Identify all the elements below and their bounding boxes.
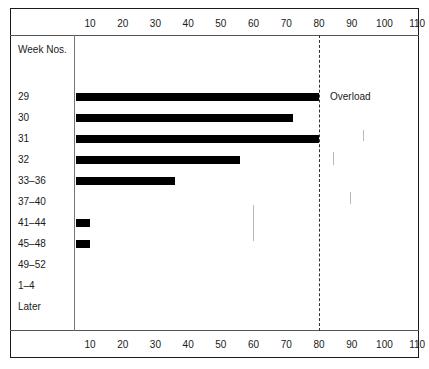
frame-top-rule: [10, 8, 419, 9]
chart-row: 29: [0, 86, 429, 107]
axis-tick-label: 40: [183, 337, 194, 353]
plot-area: Overload 2930313233–3637–4041–4445–4849–…: [0, 35, 429, 331]
axis-tick-label: 20: [117, 16, 128, 32]
chart-row: 41–44: [0, 212, 429, 233]
bar: [76, 240, 90, 248]
chart-row: 1–4: [0, 275, 429, 296]
chart-row: 49–52: [0, 254, 429, 275]
axis-tick-label: 70: [281, 337, 292, 353]
category-label: 30: [18, 107, 29, 128]
axis-tick-label: 50: [215, 337, 226, 353]
chart-row: 37–40: [0, 191, 429, 212]
top-axis-scale: 102030405060708090100110: [0, 16, 429, 32]
frame-bottom-rule: [10, 357, 419, 358]
chart-row: 33–36: [0, 170, 429, 191]
axis-tick-label: 10: [84, 337, 95, 353]
axis-tick-label: 70: [281, 16, 292, 32]
axis-tick-label: 60: [248, 337, 259, 353]
axis-tick-label: 30: [150, 337, 161, 353]
chart-row: 45–48: [0, 233, 429, 254]
category-label: 29: [18, 86, 29, 107]
axis-tick-label: 90: [346, 337, 357, 353]
axis-tick-label: 90: [346, 16, 357, 32]
chart-row: 30: [0, 107, 429, 128]
category-label: Later: [18, 296, 41, 317]
bar: [76, 219, 90, 227]
gantt-load-chart: 102030405060708090100110 102030405060708…: [0, 0, 429, 369]
bar: [76, 114, 293, 122]
axis-tick-label: 50: [215, 16, 226, 32]
axis-tick-label: 80: [313, 16, 324, 32]
bar: [76, 135, 319, 143]
category-label: 33–36: [18, 170, 46, 191]
axis-tick-label: 30: [150, 16, 161, 32]
category-label: 41–44: [18, 212, 46, 233]
axis-tick-label: 20: [117, 337, 128, 353]
axis-tick-label: 110: [409, 337, 425, 353]
category-label: 45–48: [18, 233, 46, 254]
chart-row: Later: [0, 296, 429, 317]
bar: [76, 93, 319, 101]
chart-row: 31: [0, 128, 429, 149]
category-label: 32: [18, 149, 29, 170]
axis-tick-label: 100: [376, 16, 393, 32]
category-label: 49–52: [18, 254, 46, 275]
axis-tick-label: 100: [376, 337, 393, 353]
category-label: 31: [18, 128, 29, 149]
category-label: 37–40: [18, 191, 46, 212]
axis-tick-label: 80: [313, 337, 324, 353]
axis-tick-label: 60: [248, 16, 259, 32]
bar: [76, 156, 240, 164]
chart-row: 32: [0, 149, 429, 170]
axis-tick-label: 10: [84, 16, 95, 32]
bar: [76, 177, 175, 185]
bottom-axis-scale: 102030405060708090100110: [0, 337, 429, 353]
axis-tick-label: 40: [183, 16, 194, 32]
category-label: 1–4: [18, 275, 35, 296]
axis-tick-label: 110: [409, 16, 425, 32]
